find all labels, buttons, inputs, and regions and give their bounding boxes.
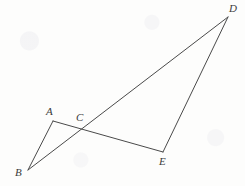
vertex-label-e: E [159, 156, 166, 167]
segment-e-d [163, 17, 228, 152]
vertex-label-b: B [15, 167, 22, 178]
vertex-label-a: A [46, 106, 53, 117]
diagram-canvas [0, 0, 245, 186]
segment-group [28, 17, 228, 170]
segment-a-e [53, 121, 163, 152]
vertex-label-d: D [229, 3, 237, 14]
vertex-label-c: C [76, 112, 83, 123]
segment-b-d [28, 17, 228, 170]
geometry-figure: A B C D E [0, 0, 245, 186]
segment-b-a [28, 121, 53, 170]
